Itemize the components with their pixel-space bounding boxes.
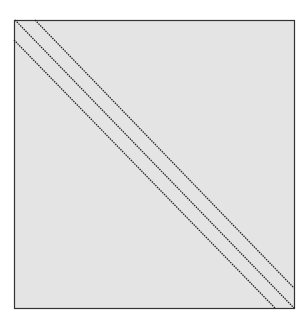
diagram-canvas [0,0,307,327]
